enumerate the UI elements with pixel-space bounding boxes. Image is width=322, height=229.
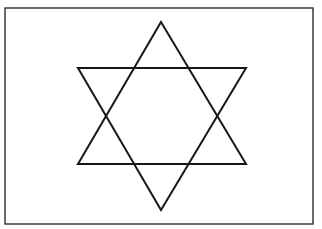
drawing-canvas: Star of David Black line drawing of a si… xyxy=(0,0,322,229)
upward-triangle xyxy=(78,22,246,164)
downward-triangle xyxy=(78,68,246,210)
star-of-david-figure: Star of David Black line drawing of a si… xyxy=(0,0,322,229)
border-rectangle xyxy=(5,8,313,224)
